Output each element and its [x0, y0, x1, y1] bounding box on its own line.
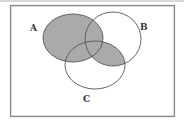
label-b: B: [140, 22, 148, 32]
label-c: C: [83, 94, 90, 104]
venn-diagram: A B C: [0, 0, 184, 122]
label-a: A: [29, 23, 38, 33]
